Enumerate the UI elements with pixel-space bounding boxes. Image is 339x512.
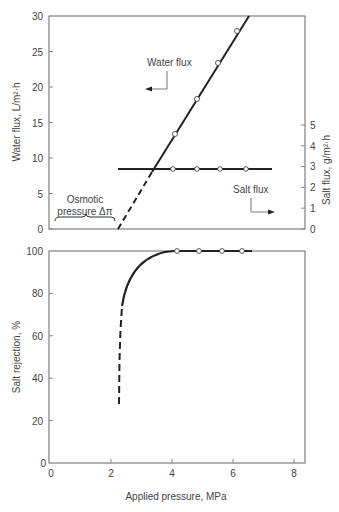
top-y-axis-label: Water flux, L/m²·h bbox=[11, 82, 22, 161]
osmotic-label-line1: Osmotic bbox=[67, 194, 104, 205]
water-flux-line-dashed bbox=[118, 172, 152, 229]
bottom-y-axis-label: Salt rejection, % bbox=[11, 321, 22, 393]
xtick-label: 6 bbox=[230, 468, 236, 479]
top-ytick-label: 15 bbox=[32, 118, 44, 129]
top-y2tick-label: 2 bbox=[310, 182, 316, 193]
top-y2tick-label: 4 bbox=[310, 141, 316, 152]
top-y2tick-label: 1 bbox=[310, 203, 316, 214]
top-y2tick-label: 0 bbox=[310, 224, 316, 235]
bottom-ytick-label: 80 bbox=[32, 288, 44, 299]
x-axis: 0 2 4 6 8 bbox=[48, 459, 297, 479]
top-ytick-label: 5 bbox=[37, 189, 43, 200]
bottom-panel: 0 20 40 60 80 100 Salt rejection, % 0 2 … bbox=[11, 246, 305, 502]
salt-flux-annotation: Salt flux bbox=[233, 184, 269, 195]
top-ytick-label: 0 bbox=[37, 224, 43, 235]
top-ytick-label: 20 bbox=[32, 82, 44, 93]
bottom-plot-frame bbox=[49, 251, 305, 463]
top-panel: 0 5 10 15 20 25 30 Water flux, L/m²·h 0 … bbox=[11, 11, 332, 235]
bottom-ytick-label: 100 bbox=[26, 246, 43, 257]
water-flux-line bbox=[152, 16, 249, 172]
top-y2-axis-label: Salt flux, g/m²·h bbox=[321, 135, 332, 205]
top-left-y-axis: 0 5 10 15 20 25 30 bbox=[32, 11, 53, 235]
water-flux-markers bbox=[173, 29, 240, 137]
bottom-ytick-label: 60 bbox=[32, 331, 44, 342]
x-axis-label: Applied pressure, MPa bbox=[125, 491, 227, 502]
arrow-right-icon bbox=[268, 210, 275, 215]
water-flux-arrow-line bbox=[152, 71, 167, 89]
water-flux-annotation: Water flux bbox=[147, 57, 192, 68]
salt-rejection-curve-dashed bbox=[119, 306, 122, 404]
reverse-osmosis-chart: 0 5 10 15 20 25 30 Water flux, L/m²·h 0 … bbox=[0, 0, 339, 512]
osmotic-label-line2: pressure Δπ bbox=[57, 206, 112, 217]
top-y2tick-label: 3 bbox=[310, 161, 316, 172]
top-ytick-label: 10 bbox=[32, 153, 44, 164]
bottom-ytick-label: 40 bbox=[32, 373, 44, 384]
xtick-label: 0 bbox=[48, 468, 54, 479]
bottom-ytick-label: 20 bbox=[32, 416, 44, 427]
top-right-y-axis: 0 1 2 3 4 5 bbox=[301, 120, 316, 235]
top-ytick-label: 30 bbox=[32, 11, 44, 22]
salt-flux-arrow-line bbox=[251, 198, 268, 212]
xtick-label: 2 bbox=[108, 468, 114, 479]
bottom-ytick-label: 0 bbox=[40, 458, 46, 469]
xtick-label: 8 bbox=[291, 468, 297, 479]
top-ytick-label: 25 bbox=[32, 47, 44, 58]
xtick-label: 4 bbox=[169, 468, 175, 479]
top-y2tick-label: 5 bbox=[310, 120, 316, 131]
salt-rejection-curve bbox=[122, 251, 252, 306]
arrow-left-icon bbox=[145, 87, 152, 92]
